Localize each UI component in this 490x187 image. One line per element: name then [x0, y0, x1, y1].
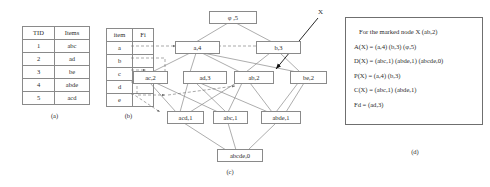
lattice-node-ab: ab,2 — [234, 71, 274, 84]
lattice-node-abcde: abcde,0 — [217, 149, 263, 162]
lattice-node-a: a,4 — [175, 41, 220, 54]
lattice-node-ac: ac,2 — [133, 71, 168, 84]
lattice-node-abde: abde,1 — [261, 111, 301, 124]
lattice-node-be: be,2 — [290, 71, 327, 84]
lattice-node-root: φ ,5 — [209, 11, 257, 24]
lattice-node-b: b,3 — [256, 41, 301, 54]
lattice-node-acd: acd,1 — [167, 111, 204, 124]
lattice-node-abc: abc,1 — [213, 111, 248, 124]
lattice-node-ad: ad,3 — [183, 71, 227, 84]
